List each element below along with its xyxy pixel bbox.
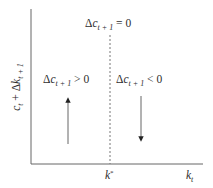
right-sub: t + 1: [129, 79, 145, 88]
y-label-op: + Δ: [10, 84, 22, 104]
steady-state-tick-label: k*: [105, 170, 114, 182]
left-region-label: Δct + 1 > 0: [43, 74, 89, 88]
kstar-star: *: [110, 169, 114, 177]
right-relation: < 0: [144, 73, 162, 85]
left-sub: t + 1: [56, 79, 72, 88]
y-axis-label: ct + Δkt + 1: [11, 52, 25, 122]
y-label-c: c: [10, 106, 22, 111]
left-relation: > 0: [71, 73, 89, 85]
y-label-k: k: [10, 79, 22, 84]
x-axis-label: kt: [186, 170, 193, 184]
locus-relation: = 0: [113, 17, 131, 29]
x-label-sub: t: [191, 175, 193, 184]
locus-sub: t + 1: [98, 23, 114, 32]
y-label-k-sub: t + 1: [16, 63, 25, 79]
locus-label: Δct + 1 = 0: [85, 18, 131, 32]
right-region-label: Δct + 1 < 0: [116, 74, 162, 88]
